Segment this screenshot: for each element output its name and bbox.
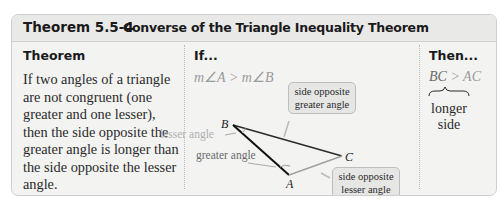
vertex-c-label: C: [345, 150, 353, 165]
angle-a-arc: [280, 165, 290, 167]
vertex-a-label: A: [286, 177, 293, 192]
longer-side-label: longer side: [429, 101, 469, 133]
callout-side-opposite-lesser: side opposite lesser angle: [332, 167, 400, 196]
callout-side-opposite-greater: side opposite greater angle: [288, 82, 356, 114]
diagram-lines: [12, 15, 496, 195]
theorem-box: Theorem 5.5-4 Converse of the Triangle I…: [11, 14, 497, 196]
greater-angle-label: greater angle: [196, 149, 256, 161]
lesser-angle-label: lesser angle: [160, 128, 214, 140]
brace-icon: [429, 87, 469, 96]
vertex-b-label: B: [221, 117, 228, 132]
angle-b-arc: [242, 128, 245, 133]
